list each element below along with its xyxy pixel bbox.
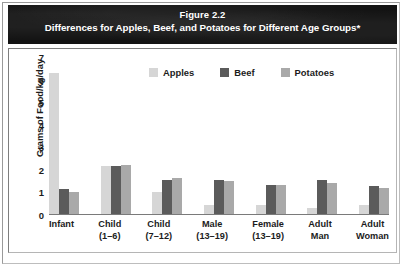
x-axis-label-line1: Child — [98, 219, 121, 229]
bar-potatoes — [172, 178, 182, 215]
y-tick-label: 6 — [39, 74, 44, 85]
y-tick-label: 3 — [39, 142, 44, 153]
bar-group — [204, 57, 234, 215]
bar-potatoes — [379, 188, 389, 215]
bar-group — [101, 57, 131, 215]
x-axis-label: Child(7–12) — [146, 219, 173, 242]
x-axis-label-line2: Woman — [356, 231, 389, 243]
bar-beef — [111, 166, 121, 215]
plot-area: 01234567 — [49, 57, 389, 215]
bar-beef — [59, 189, 69, 215]
bar-group — [256, 57, 286, 215]
x-axis-labels: InfantChild(1–6)Child(7–12)Male(13–19)Fe… — [49, 219, 389, 242]
y-tick-label: 1 — [39, 187, 44, 198]
bar-potatoes — [121, 165, 131, 215]
y-tick-label: 0 — [39, 210, 44, 221]
bar-group — [49, 57, 79, 215]
x-axis-label: AdultMan — [308, 219, 331, 242]
x-axis-label-line1: Adult — [308, 219, 331, 229]
x-axis-label: Male(13–19) — [196, 219, 228, 242]
figure-title-banner: Figure 2.2 Differences for Apples, Beef,… — [8, 5, 397, 44]
x-axis-label-line2: (13–19) — [196, 231, 228, 243]
x-axis-label-line1: Male — [202, 219, 222, 229]
bar-beef — [162, 180, 172, 215]
y-tick-label: 5 — [39, 97, 44, 108]
x-axis-baseline — [49, 214, 389, 215]
bar-apples — [101, 166, 111, 215]
bar-group — [307, 57, 337, 215]
figure-number: Figure 2.2 — [8, 9, 397, 20]
figure-caption: Differences for Apples, Beef, and Potato… — [14, 22, 391, 34]
x-axis-label-line1: Infant — [49, 219, 74, 229]
plot-frame: Grams of Food/kg/day ApplesBeefPotatoes … — [8, 48, 397, 253]
x-axis-label-line2: (1–6) — [98, 231, 121, 243]
bar-beef — [214, 180, 224, 215]
bar-apples — [49, 73, 59, 215]
x-axis-label-line1: Adult — [361, 219, 384, 229]
bar-beef — [266, 185, 276, 215]
x-axis-label: Child(1–6) — [98, 219, 121, 242]
x-axis-label-line2: (7–12) — [146, 231, 173, 243]
bar-potatoes — [327, 183, 337, 215]
x-axis-label: Infant — [49, 219, 74, 242]
bar-potatoes — [224, 181, 234, 215]
y-tick-label: 4 — [39, 119, 44, 130]
x-axis-label: AdultWoman — [356, 219, 389, 242]
bar-group — [152, 57, 182, 215]
bar-group — [359, 57, 389, 215]
x-axis-label-line1: Female — [252, 219, 284, 229]
bars-layer — [49, 57, 389, 215]
y-tick-label: 7 — [39, 52, 44, 63]
bar-potatoes — [276, 185, 286, 215]
bar-potatoes — [69, 192, 79, 215]
y-tick-label: 2 — [39, 164, 44, 175]
x-axis-label: Female(13–19) — [252, 219, 284, 242]
bar-beef — [317, 180, 327, 215]
bar-apples — [152, 192, 162, 215]
x-axis-label-line1: Child — [147, 219, 170, 229]
x-axis-label-line2: (13–19) — [252, 231, 284, 243]
figure-container: Figure 2.2 Differences for Apples, Beef,… — [0, 0, 404, 268]
x-axis-label-line2: Man — [308, 231, 331, 243]
bar-beef — [369, 186, 379, 215]
